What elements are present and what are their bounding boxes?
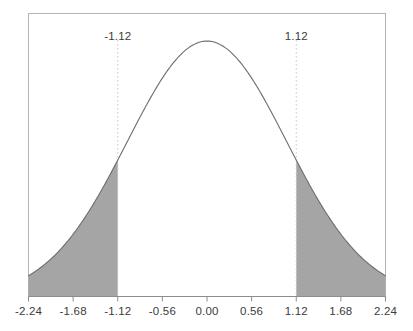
plot-area xyxy=(0,0,413,331)
x-axis-tick-label: -2.24 xyxy=(15,305,42,317)
x-axis-tick-marks xyxy=(29,297,386,302)
x-axis-tick-label: -0.56 xyxy=(149,305,176,317)
normal-distribution-figure: -2.24-1.68-1.12-0.560.000.561.121.682.24… xyxy=(0,0,413,331)
x-axis-tick-label: -1.68 xyxy=(60,305,87,317)
x-axis-tick-label: 0.56 xyxy=(240,305,263,317)
critical-value-label: -1.12 xyxy=(104,30,131,42)
x-axis-tick-label: 0.00 xyxy=(195,305,218,317)
critical-value-label: 1.12 xyxy=(285,30,308,42)
x-axis-tick-label: 2.24 xyxy=(374,305,397,317)
x-axis-tick-label: 1.68 xyxy=(329,305,352,317)
x-axis-tick-label: 1.12 xyxy=(285,305,308,317)
x-axis-tick-label: -1.12 xyxy=(104,305,131,317)
